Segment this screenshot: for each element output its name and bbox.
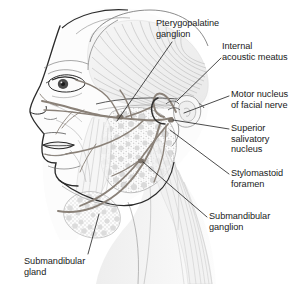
label-motor-nucleus-of-facial-nerve: Motor nucleus of facial nerve [231,89,303,110]
label-superior-salivatory-nucleus: Superior salivatory nucleus [231,123,303,155]
label-stylomastoid-foramen: Stylomastoid foramen [231,168,303,189]
label-submandibular-ganglion: Submandibular ganglion [209,211,303,232]
anatomical-figure: Pterygopalatine ganglion Internal acoust… [0,0,303,284]
label-pterygopalatine-ganglion: Pterygopalatine ganglion [156,18,252,39]
label-submandibular-gland: Submandibular gland [24,256,118,277]
label-internal-acoustic-meatus: Internal acoustic meatus [222,41,303,62]
